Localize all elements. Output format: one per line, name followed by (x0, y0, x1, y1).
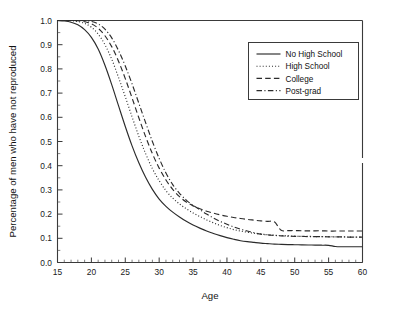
y-tick-label: 0.1 (40, 233, 52, 243)
y-tick-label: 1.0 (40, 16, 52, 26)
x-tick-label: 15 (53, 267, 63, 277)
y-tick-label: 0.4 (40, 161, 52, 171)
x-tick-label: 50 (290, 267, 300, 277)
x-tick-label: 45 (256, 267, 266, 277)
y-axis-title: Percentage of men who have not reproduce… (7, 45, 18, 237)
x-tick-label: 25 (121, 267, 131, 277)
x-tick-label: 35 (188, 267, 198, 277)
y-tick-label: 0.5 (40, 137, 52, 147)
y-tick-label: 0.2 (40, 209, 52, 219)
y-tick-label: 0.6 (40, 112, 52, 122)
y-tick-label: 0.0 (40, 258, 52, 268)
x-tick-label: 60 (358, 267, 368, 277)
y-tick-label: 0.9 (40, 40, 52, 50)
x-tick-label: 20 (87, 267, 97, 277)
y-tick-label: 0.8 (40, 64, 52, 74)
legend-label-college: College (286, 75, 314, 84)
x-axis-title: Age (201, 290, 218, 301)
chart-figure: 15202530354045505560Age0.00.10.20.30.40.… (0, 0, 399, 312)
y-tick-label: 0.3 (40, 185, 52, 195)
survival-curve-chart: 15202530354045505560Age0.00.10.20.30.40.… (0, 0, 399, 312)
legend-label-post-grad: Post-grad (286, 87, 322, 96)
legend-label-no-high-school: No High School (286, 50, 343, 59)
legend-label-high-school: High School (286, 62, 330, 71)
x-tick-label: 55 (324, 267, 334, 277)
x-tick-label: 40 (222, 267, 232, 277)
x-tick-label: 30 (155, 267, 165, 277)
y-tick-label: 0.7 (40, 88, 52, 98)
